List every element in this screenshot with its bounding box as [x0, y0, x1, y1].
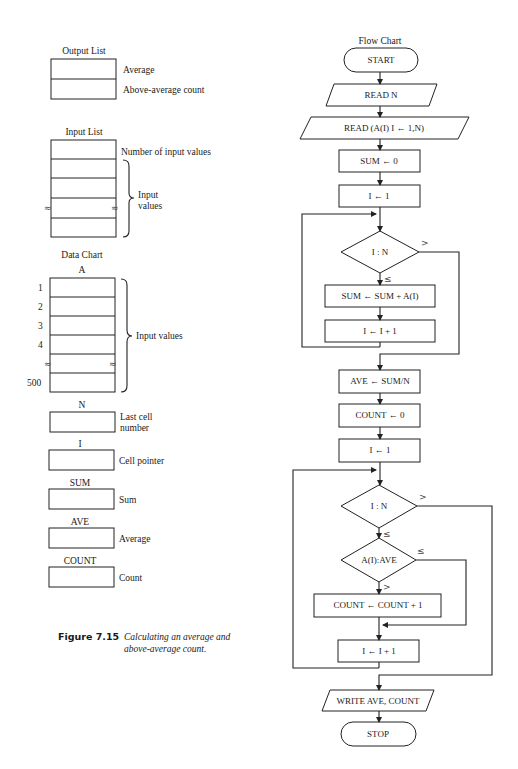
caption-line-1: Calculating an average and	[124, 632, 231, 642]
data-chart-title: Data Chart	[61, 250, 103, 260]
var-desc-n-2: number	[120, 423, 150, 433]
sum-init-label: SUM ← 0	[360, 156, 398, 166]
var-desc-sum: Sum	[119, 495, 137, 505]
var-box-n	[50, 412, 115, 432]
i-init-label-1: I ← 1	[369, 191, 390, 201]
start-label: START	[367, 55, 395, 65]
flow-chart: Flow Chart START READ N READ (A(I) I ← 1…	[293, 36, 492, 746]
read-array-label: READ (A(I) I ← 1,N)	[344, 123, 424, 133]
var-box-sum	[49, 489, 114, 509]
input-values-label-2: values	[138, 201, 163, 211]
output-list: Output List Average Above-average count	[51, 46, 205, 99]
stop-label: STOP	[367, 729, 389, 739]
count-inc-label: COUNT ← COUNT + 1	[333, 600, 422, 610]
loop-2-back-edge	[293, 470, 379, 668]
var-name-sum: SUM	[70, 478, 91, 488]
i-inc-label-1: I ← I + 1	[363, 326, 397, 336]
decision-1-gt: >	[421, 238, 429, 248]
input-values-label-1: Input	[138, 190, 158, 200]
index-500: 500	[27, 378, 42, 388]
read-n-label: READ N	[364, 90, 398, 100]
break-symbol-left: ≈	[44, 359, 52, 369]
var-box-ave	[49, 528, 114, 548]
var-desc-ave: Average	[119, 534, 150, 544]
output-row-label-count: Above-average count	[123, 85, 205, 95]
count-init-label: COUNT ← 0	[356, 410, 405, 420]
flow-chart-title: Flow Chart	[358, 36, 401, 46]
break-symbol-right: ≈	[111, 203, 119, 213]
index-3: 3	[38, 321, 43, 331]
decision-2-gt: >	[419, 492, 427, 502]
input-list-box	[51, 140, 116, 237]
decision-1-label: I : N	[372, 247, 389, 257]
var-desc-i: Cell pointer	[119, 456, 165, 466]
data-chart: Data Chart A 1 2 3 4 500 ≈ ≈ Input value…	[27, 250, 183, 587]
input-count-label: Number of input values	[121, 147, 211, 157]
i-init-label-2: I ← 1	[370, 445, 391, 455]
decision-1-exit	[380, 252, 459, 370]
break-symbol-left: ≈	[44, 203, 52, 213]
brace-icon	[123, 160, 134, 237]
var-desc-n-1: Last cell	[120, 412, 153, 422]
decision-3-exit	[383, 560, 466, 625]
input-list: Input List ≈ ≈ Number of input values In…	[44, 127, 211, 237]
index-4: 4	[38, 340, 43, 350]
index-2: 2	[38, 302, 43, 312]
brace-icon	[121, 279, 132, 392]
decision-1-le: ≤	[384, 274, 392, 284]
write-label: WRITE AVE, COUNT	[336, 696, 420, 706]
decision-3-le: ≤	[417, 546, 425, 556]
var-desc-count: Count	[119, 573, 143, 583]
break-symbol-right: ≈	[109, 359, 117, 369]
var-name-ave: AVE	[71, 517, 89, 527]
caption-line-2: above-average count.	[124, 644, 206, 654]
output-list-title: Output List	[62, 46, 106, 56]
array-brace-label: Input values	[136, 331, 183, 341]
decision-3-gt: >	[383, 582, 391, 592]
decision-2-label: I : N	[371, 501, 388, 511]
var-name-n: N	[79, 400, 86, 410]
input-list-title: Input List	[65, 127, 103, 137]
figure-canvas: Output List Average Above-average count …	[0, 0, 518, 769]
ave-calc-label: AVE ← SUM/N	[350, 376, 410, 386]
sum-add-label: SUM ← SUM + A(I)	[341, 291, 418, 301]
var-name-count: COUNT	[64, 556, 97, 566]
decision-3-label: A(I):AVE	[361, 555, 397, 565]
var-name-i: I	[78, 439, 81, 449]
array-name: A	[79, 265, 86, 275]
decision-2-le: ≤	[383, 529, 391, 539]
var-box-count	[49, 567, 114, 587]
i-inc-label-2: I ← I + 1	[362, 646, 396, 656]
output-row-label-average: Average	[123, 65, 154, 75]
index-1: 1	[38, 283, 43, 293]
figure-number: Figure 7.15	[58, 631, 119, 642]
figure-caption: Figure 7.15 Calculating an average and a…	[58, 631, 231, 654]
var-box-i	[49, 450, 114, 470]
